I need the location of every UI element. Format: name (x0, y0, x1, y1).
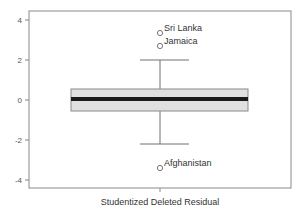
y-tick-label: -4 (15, 176, 23, 185)
median-line (71, 97, 248, 101)
outlier-point (157, 165, 162, 170)
outlier-label: Jamaica (164, 36, 198, 46)
outlier-point (157, 43, 162, 48)
outlier-label: Sri Lanka (164, 23, 202, 33)
y-axis: 420-2-4 (15, 16, 29, 185)
outlier-label: Afghanistan (164, 158, 212, 168)
outlier-point (157, 30, 162, 35)
x-axis-title: Studentized Deleted Residual (101, 197, 220, 207)
y-tick-label: -2 (15, 136, 23, 145)
y-tick-label: 4 (18, 16, 23, 25)
box-plot: 420-2-4 Sri LankaJamaicaAfghanistan Stud… (0, 0, 299, 211)
y-tick-label: 2 (18, 56, 23, 65)
y-tick-label: 0 (18, 96, 23, 105)
